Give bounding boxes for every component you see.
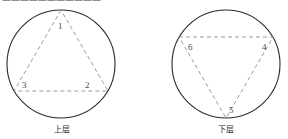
vertex-label-5: 5 (229, 105, 234, 115)
caption-upper-layer: 上层 (36, 125, 88, 135)
caption-lower-layer: 下层 (200, 125, 252, 135)
diagram-lower-layer: 6 4 5 (172, 10, 280, 118)
diagram-upper-layer: 1 3 2 (7, 10, 115, 118)
truncated-header-text: ——————————— (2, 0, 162, 5)
triangle-lower-layer (179, 37, 273, 118)
vertex-label-3: 3 (22, 80, 27, 90)
two-circle-triangle-diagram: 1 3 2 6 4 5 (0, 0, 288, 139)
figure-container: ——————————— 1 3 2 6 4 5 上层 下层 (0, 0, 288, 139)
vertex-label-2: 2 (85, 80, 90, 90)
vertex-label-4: 4 (262, 42, 267, 52)
vertex-label-1: 1 (58, 21, 63, 31)
vertex-label-6: 6 (188, 42, 193, 52)
circle-lower-layer (172, 10, 280, 118)
